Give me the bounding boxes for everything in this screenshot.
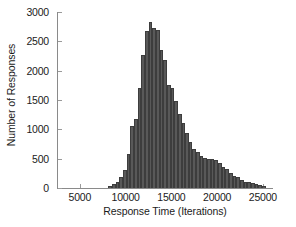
- x-tick-label: 15000: [157, 191, 185, 203]
- x-axis-line: [57, 188, 273, 189]
- y-axis-title: Number of Responses: [2, 0, 20, 190]
- y-tick-label: 500: [32, 153, 49, 165]
- histogram-bars: [58, 12, 273, 188]
- y-tick-label: 1500: [26, 94, 49, 106]
- x-axis-title: Response Time (Iterations): [57, 205, 273, 217]
- y-tick-label: 2500: [26, 35, 49, 47]
- x-tick-label: 20000: [203, 191, 231, 203]
- histogram-bar: [262, 186, 266, 188]
- histogram-figure: Number of Responses 05001000150020002500…: [0, 0, 296, 227]
- x-tick-label: 10000: [112, 191, 140, 203]
- y-tick-label: 0: [43, 182, 49, 194]
- plot-area: 050010001500200025003000 500010000150002…: [57, 12, 272, 188]
- y-tick-label: 1000: [26, 123, 49, 135]
- y-tick: [58, 188, 62, 189]
- x-tick-label: 25000: [249, 191, 277, 203]
- y-tick-label: 2000: [26, 65, 49, 77]
- x-tick-label: 5000: [69, 191, 92, 203]
- y-tick-label: 3000: [26, 6, 49, 18]
